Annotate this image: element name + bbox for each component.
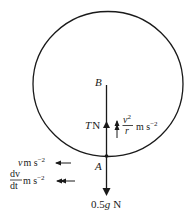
tangential-accel-label: dv dt m s−2 xyxy=(10,168,45,191)
velocity-arrowhead-icon xyxy=(55,161,61,166)
centripetal-accel-label: v2 r m s−2 xyxy=(123,113,159,136)
circular-path xyxy=(33,12,183,157)
vertical-circle-diagram: B A TN 0.5gN v2 r m s−2 vm s−2 dv dt m s… xyxy=(0,0,191,218)
weight-label: 0.5gN xyxy=(91,198,121,210)
tension-arrow-icon xyxy=(103,121,110,128)
point-b-label: B xyxy=(95,76,102,88)
svg-text:dt: dt xyxy=(10,180,18,191)
svg-text:m s−2: m s−2 xyxy=(23,174,45,186)
svg-text:dv: dv xyxy=(10,168,20,179)
svg-text:r: r xyxy=(125,125,129,136)
weight-arrowhead-icon xyxy=(103,188,111,196)
velocity-label: vm s−2 xyxy=(18,156,46,168)
svg-text:m s−2: m s−2 xyxy=(136,120,158,132)
point-a-label: A xyxy=(94,160,102,172)
tension-label: TN xyxy=(85,119,100,131)
svg-text:v2: v2 xyxy=(123,113,131,125)
